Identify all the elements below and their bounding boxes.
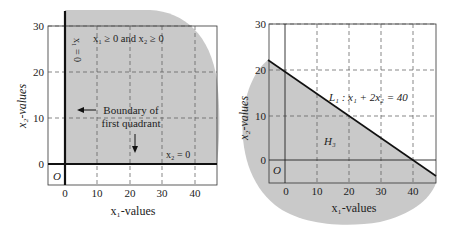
right-ytick-10: 10 — [255, 110, 267, 122]
x1-zero-label: x₁ = 0 — [72, 38, 83, 62]
right-chart: 30 20 10 0 0 10 20 30 40 x₂-values x₁-va… — [237, 18, 436, 225]
right-xtick-0: 0 — [283, 185, 289, 197]
h3-region-label: H₃ — [323, 135, 336, 147]
left-ytick-20: 20 — [33, 66, 45, 78]
left-chart: 30 20 10 0 0 10 20 30 40 x₂-values x₁-va… — [15, 10, 219, 218]
figure: 30 20 10 0 0 10 20 30 40 x₂-values x₁-va… — [0, 0, 454, 235]
right-xtick-20: 20 — [344, 185, 356, 197]
left-ytick-10: 10 — [33, 112, 45, 124]
right-xtick-30: 30 — [376, 185, 388, 197]
x2-zero-label: x₂ = 0 — [166, 149, 190, 160]
left-xtick-40: 40 — [190, 187, 202, 199]
right-ytick-20: 20 — [255, 64, 267, 76]
boundary-label-line1: Boundary of — [103, 104, 159, 116]
left-ytick-30: 30 — [33, 20, 45, 32]
right-x-axis-title: x₁-values — [332, 201, 377, 215]
right-y-axis-title: x₂-values — [237, 96, 251, 141]
right-ytick-0: 0 — [261, 154, 267, 166]
left-origin-label: O — [53, 170, 61, 182]
left-xtick-0: 0 — [62, 187, 68, 199]
right-origin-label: O — [273, 164, 281, 176]
left-xtick-20: 20 — [125, 187, 137, 199]
left-x-axis-title: x₁-values — [111, 204, 156, 218]
first-quadrant-condition-label: x₁ ≥ 0 and x₂ ≥ 0 — [93, 33, 164, 44]
left-xtick-10: 10 — [92, 187, 104, 199]
line-l1-equation-label: L₁ : x₁ + 2x₂ = 40 — [328, 91, 408, 103]
right-ytick-30: 30 — [255, 18, 267, 30]
right-xtick-10: 10 — [312, 185, 324, 197]
left-ytick-0: 0 — [39, 158, 45, 170]
right-xtick-40: 40 — [408, 185, 420, 197]
boundary-label-line2: first quadrant — [102, 117, 161, 129]
left-xtick-30: 30 — [157, 187, 169, 199]
left-y-axis-title: x₂-values — [15, 84, 29, 129]
